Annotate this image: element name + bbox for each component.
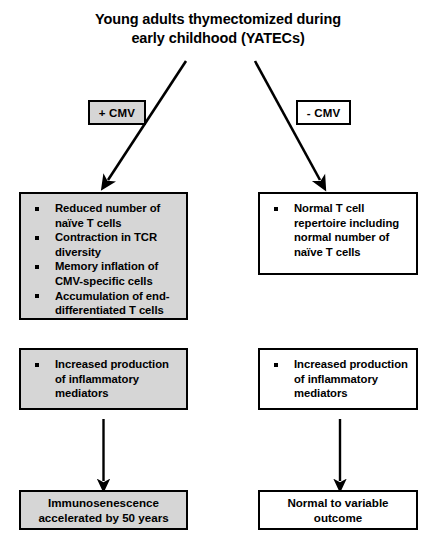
right-branch-t-cell-findings-box: Normal T cell repertoire including norma…	[258, 192, 418, 275]
right-branch-outcome-line-1: Normal to variable	[287, 496, 388, 509]
left-branch-outcome-line-1: Immunosenescence	[48, 496, 159, 509]
left-branch-outcome-text: Immunosenescence accelerated by 50 years	[38, 495, 168, 525]
right-branch-t-cell-findings-list: Normal T cell repertoire including norma…	[268, 201, 410, 259]
left-branch-outcome-box: Immunosenescence accelerated by 50 years	[19, 490, 188, 530]
figure-title-line-2: early childhood (YATECs)	[48, 29, 388, 48]
right-branch-outcome-text: Normal to variable outcome	[287, 495, 388, 525]
left-branch-inflammation-list: Increased production of inflammatory med…	[29, 357, 180, 401]
right-branch-outcome-line-2: outcome	[314, 511, 362, 524]
list-item: Increased production of inflammatory med…	[268, 357, 410, 401]
flowchart-diagram: Young adults thymectomized during early …	[0, 0, 436, 536]
condition-label-cmv-positive-text: + CMV	[99, 107, 135, 119]
left-branch-outcome-line-2: accelerated by 50 years	[38, 511, 168, 524]
right-branch-inflammation-list: Increased production of inflammatory med…	[268, 357, 410, 401]
right-branch-outcome-box: Normal to variable outcome	[258, 490, 418, 530]
list-item: Reduced number of naïve T cells	[29, 201, 180, 230]
list-item: Contraction in TCR diversity	[29, 230, 180, 259]
left-branch-t-cell-findings-box: Reduced number of naïve T cells Contract…	[19, 192, 188, 320]
figure-title: Young adults thymectomized during early …	[48, 10, 388, 48]
list-item: Normal T cell repertoire including norma…	[268, 201, 410, 259]
condition-label-cmv-negative: - CMV	[296, 100, 351, 125]
list-item: Accumulation of end-differentiated T cel…	[29, 289, 180, 318]
list-item: Memory inflation of CMV-specific cells	[29, 259, 180, 288]
condition-label-cmv-positive: + CMV	[88, 100, 146, 125]
condition-label-cmv-negative-text: - CMV	[307, 107, 341, 119]
left-branch-t-cell-findings-list: Reduced number of naïve T cells Contract…	[29, 201, 180, 318]
figure-title-line-1: Young adults thymectomized during	[48, 10, 388, 29]
left-branch-inflammation-box: Increased production of inflammatory med…	[19, 348, 188, 410]
right-branch-inflammation-box: Increased production of inflammatory med…	[258, 348, 418, 410]
list-item: Increased production of inflammatory med…	[29, 357, 180, 401]
